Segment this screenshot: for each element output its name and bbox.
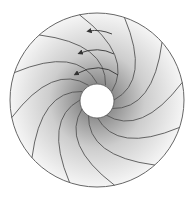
center-hole (80, 84, 114, 118)
spiral-diagram (0, 0, 192, 199)
